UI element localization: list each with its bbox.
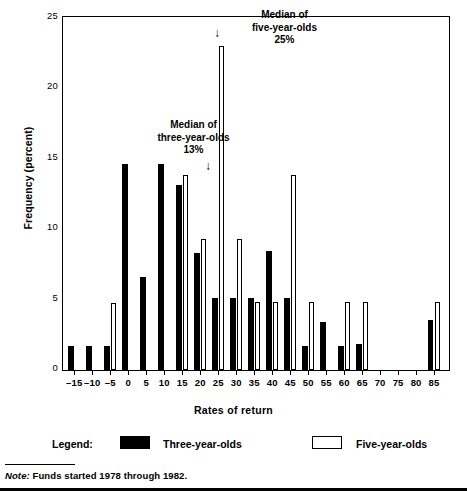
- y-tick-label: 0: [12, 363, 58, 373]
- bar-three-year-olds: [338, 346, 343, 370]
- bar-three-year-olds: [86, 346, 91, 370]
- figure: Frequency (percent) 0510152025 –15–10–50…: [0, 0, 467, 491]
- bar-three-year-olds: [428, 320, 433, 369]
- bar-three-year-olds: [302, 346, 307, 370]
- x-tick-mark: [290, 371, 291, 375]
- legend-swatch-five-year-olds: [312, 436, 342, 449]
- bottom-rule: [0, 488, 467, 491]
- bar-five-year-olds: [111, 303, 116, 369]
- annotation-median-five-year-olds: Median offive-year-olds25%: [222, 9, 347, 47]
- x-axis-ticks: –15–10–505101520253035404550556065707580…: [62, 371, 450, 393]
- bar-five-year-olds: [201, 239, 206, 370]
- bar-five-year-olds: [237, 239, 242, 370]
- x-tick-mark: [254, 371, 255, 375]
- x-tick-mark: [398, 371, 399, 375]
- x-tick-mark: [236, 371, 237, 375]
- x-axis-label: Rates of return: [0, 404, 467, 416]
- x-tick-mark: [308, 371, 309, 375]
- x-tick-mark: [182, 371, 183, 375]
- annotation-arrow-three-icon: ↓: [205, 160, 211, 172]
- legend: Legend: Three-year-olds Five-year-olds: [0, 432, 467, 458]
- bar-five-year-olds: [219, 46, 224, 370]
- bar-three-year-olds: [320, 322, 325, 370]
- note: Note: Funds started 1978 through 1982.: [5, 470, 187, 481]
- y-tick-label: 5: [12, 293, 58, 303]
- bar-five-year-olds: [309, 302, 314, 370]
- x-tick-mark: [380, 371, 381, 375]
- bar-three-year-olds: [68, 346, 73, 370]
- plot-area: [62, 16, 450, 371]
- x-tick-label: 85: [419, 377, 449, 388]
- annotation-line: three-year-olds: [141, 132, 246, 145]
- x-tick-mark: [92, 371, 93, 375]
- bar-three-year-olds: [356, 344, 361, 369]
- y-tick-label: 15: [12, 152, 58, 162]
- annotation-line: 13%: [141, 144, 246, 157]
- annotation-arrow-five-icon: ↓: [214, 27, 220, 39]
- bar-three-year-olds: [158, 164, 163, 370]
- bar-three-year-olds: [266, 251, 271, 369]
- bar-three-year-olds: [122, 164, 127, 370]
- annotation-line: five-year-olds: [222, 22, 347, 35]
- legend-swatch-three-year-olds: [120, 436, 150, 449]
- legend-label-five-year-olds: Five-year-olds: [356, 438, 427, 450]
- legend-label-three-year-olds: Three-year-olds: [163, 438, 242, 450]
- bars-layer: [64, 18, 449, 370]
- bar-five-year-olds: [345, 302, 350, 370]
- bar-three-year-olds: [140, 277, 145, 370]
- x-tick-mark: [146, 371, 147, 375]
- y-tick-label: 10: [12, 222, 58, 232]
- legend-title: Legend:: [52, 438, 93, 450]
- bar-three-year-olds: [248, 298, 253, 370]
- bar-three-year-olds: [176, 185, 181, 369]
- x-tick-mark: [128, 371, 129, 375]
- x-tick-mark: [218, 371, 219, 375]
- bar-three-year-olds: [194, 253, 199, 370]
- annotation-line: 25%: [222, 34, 347, 47]
- bar-five-year-olds: [255, 302, 260, 370]
- y-tick-label: 20: [12, 81, 58, 91]
- x-tick-mark: [110, 371, 111, 375]
- x-tick-mark: [362, 371, 363, 375]
- x-tick-mark: [434, 371, 435, 375]
- annotation-line: Median of: [222, 9, 347, 22]
- bar-three-year-olds: [212, 298, 217, 370]
- annotation-line: Median of: [141, 119, 246, 132]
- y-tick-label: 25: [12, 11, 58, 21]
- bar-five-year-olds: [435, 302, 440, 370]
- note-divider: [5, 464, 75, 465]
- x-tick-mark: [326, 371, 327, 375]
- note-text: Funds started 1978 through 1982.: [30, 470, 187, 481]
- bar-five-year-olds: [291, 175, 296, 369]
- bar-three-year-olds: [230, 298, 235, 370]
- x-tick-mark: [74, 371, 75, 375]
- x-tick-mark: [344, 371, 345, 375]
- x-tick-mark: [164, 371, 165, 375]
- bar-five-year-olds: [273, 302, 278, 370]
- annotation-median-three-year-olds: Median ofthree-year-olds13%: [141, 119, 246, 157]
- x-tick-mark: [416, 371, 417, 375]
- x-tick-mark: [272, 371, 273, 375]
- bar-three-year-olds: [284, 298, 289, 370]
- bar-five-year-olds: [363, 302, 368, 370]
- y-axis-ticks: 0510152025: [0, 16, 58, 371]
- bar-three-year-olds: [104, 346, 109, 370]
- note-prefix: Note:: [5, 470, 30, 481]
- bar-five-year-olds: [183, 175, 188, 369]
- x-tick-mark: [200, 371, 201, 375]
